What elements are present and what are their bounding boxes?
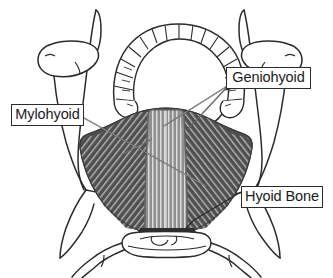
label-geniohyoid-text: Geniohyoid <box>232 70 304 85</box>
anatomy-illustration <box>0 0 333 278</box>
label-hyoid-bone-text: Hyoid Bone <box>245 189 319 204</box>
hyoid-bone <box>72 228 261 278</box>
label-mylohyoid: Mylohyoid <box>11 104 84 126</box>
label-mylohyoid-text: Mylohyoid <box>15 107 79 122</box>
label-hyoid-bone: Hyoid Bone <box>241 186 323 208</box>
label-geniohyoid: Geniohyoid <box>226 67 311 89</box>
anatomy-figure: Mylohyoid Geniohyoid Hyoid Bone <box>0 0 333 278</box>
